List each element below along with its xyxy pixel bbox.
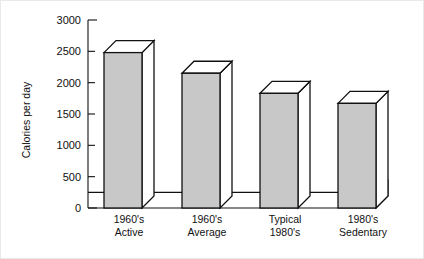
bar [260, 81, 310, 208]
y-axis-tick-label: 2000 [57, 77, 81, 89]
x-axis-category-label: 1960's [114, 213, 145, 225]
x-axis-category-label: Sedentary [339, 226, 388, 238]
x-axis-category-label: 1980's [348, 213, 379, 225]
y-axis-tick-labels: 050010001500200025003000 [57, 14, 81, 214]
x-axis-category-label: Typical [269, 213, 302, 225]
y-axis-tick-label: 500 [63, 171, 81, 183]
y-axis-tick-label: 2500 [57, 45, 81, 57]
bar [104, 41, 154, 208]
x-axis-category-label: 1980's [270, 226, 301, 238]
y-axis-tick-label: 1500 [57, 108, 81, 120]
y-axis-tick-label: 3000 [57, 14, 81, 26]
bar [338, 91, 388, 208]
bar-chart: 050010001500200025003000 1960'sActive196… [0, 0, 424, 259]
x-axis-category-label: 1960's [192, 213, 223, 225]
y-axis: 050010001500200025003000 [57, 14, 97, 214]
x-axis-category-label: Active [115, 226, 144, 238]
chart-canvas: 050010001500200025003000 1960'sActive196… [0, 0, 424, 259]
x-axis-category-labels: 1960'sActive1960'sAverageTypical1980's19… [114, 213, 388, 238]
y-axis-ticks [88, 20, 97, 208]
bars-group [104, 41, 388, 208]
bar [182, 61, 232, 208]
x-axis-category-label: Average [188, 226, 227, 238]
y-axis-tick-label: 0 [75, 202, 81, 214]
y-axis-title: Calories per day [20, 81, 32, 158]
y-axis-tick-label: 1000 [57, 139, 81, 151]
